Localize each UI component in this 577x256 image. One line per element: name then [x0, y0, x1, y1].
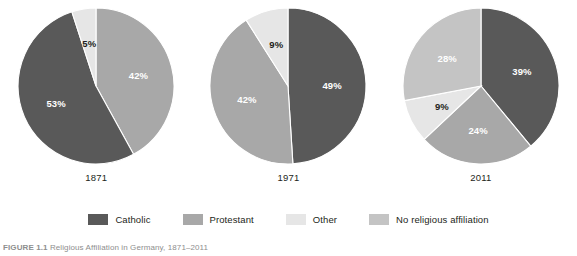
legend-label-protestant: Protestant	[210, 214, 254, 225]
pie-year-label-1871: 1871	[85, 172, 107, 183]
legend-swatch-catholic	[88, 214, 108, 225]
legend-swatch-no-religious-affiliation	[369, 214, 389, 225]
pie-svg-2011	[401, 6, 561, 166]
figure-caption: FIGURE 1.1 Religious Affiliation in Germ…	[3, 243, 573, 252]
pie-charts-row: 42%53%5% 1871 49%42%9% 1971 39%24%9%28% …	[0, 0, 577, 196]
legend-label-no-religious-affiliation: No religious affiliation	[396, 214, 489, 225]
pie-slice-no-religious-affiliation	[403, 8, 481, 101]
legend-label-catholic: Catholic	[115, 214, 150, 225]
pie-svg-1871	[16, 6, 176, 166]
pie-year-label-1971: 1971	[278, 172, 300, 183]
pie-chart-1971: 49%42%9% 1971	[193, 0, 383, 196]
pie-year-label-2011: 2011	[470, 172, 491, 183]
pie-chart-1871: 42%53%5% 1871	[1, 0, 191, 196]
legend-swatch-protestant	[183, 214, 203, 225]
legend-swatch-other	[286, 214, 306, 225]
figure-container: 42%53%5% 1871 49%42%9% 1971 39%24%9%28% …	[0, 0, 577, 256]
pie-graphic-2011: 39%24%9%28%	[401, 6, 561, 166]
figure-caption-number: FIGURE 1.1	[3, 243, 48, 252]
pie-svg-1971	[208, 6, 368, 166]
figure-caption-text: Religious Affiliation in Germany, 1871–2…	[50, 243, 208, 252]
legend: Catholic Protestant Other No religious a…	[0, 210, 577, 228]
legend-item-other: Other	[286, 214, 337, 225]
pie-graphic-1971: 49%42%9%	[208, 6, 368, 166]
pie-slice-catholic	[288, 8, 366, 164]
legend-item-no-religious-affiliation: No religious affiliation	[369, 214, 489, 225]
legend-item-catholic: Catholic	[88, 214, 150, 225]
pie-graphic-1871: 42%53%5%	[16, 6, 176, 166]
legend-label-other: Other	[313, 214, 337, 225]
pie-chart-2011: 39%24%9%28% 2011	[386, 0, 576, 196]
legend-item-protestant: Protestant	[183, 214, 254, 225]
